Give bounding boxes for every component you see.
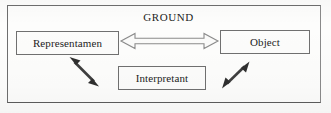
diagram-canvas: GROUND Representamen Object Interpretant — [0, 0, 331, 113]
connector-layer — [0, 0, 331, 113]
connector-representamen-interpretant-icon — [70, 57, 100, 87]
connector-interpretant-object-icon — [222, 62, 250, 89]
connector-representamen-object-icon — [121, 34, 218, 49]
